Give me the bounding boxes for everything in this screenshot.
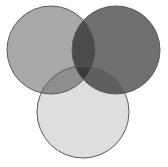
venn-diagram xyxy=(0,0,168,167)
